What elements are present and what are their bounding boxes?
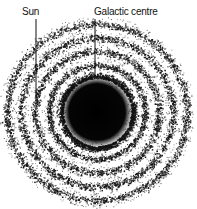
sun-label: Sun [22,7,39,17]
galactic-core [61,76,133,148]
galactic-centre-label: Galactic centre [94,7,158,17]
galaxy-diagram [0,0,197,209]
